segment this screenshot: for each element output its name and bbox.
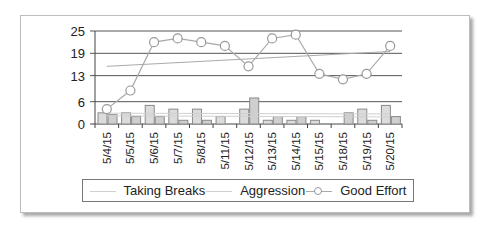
bar-taking-breaks xyxy=(311,120,320,124)
bar-taking-breaks xyxy=(287,120,296,124)
y-tick-label: 6 xyxy=(78,95,85,110)
bar-aggression xyxy=(155,117,164,124)
x-tick-label: 5/8/15 xyxy=(195,132,207,164)
x-tick-label: 5/5/15 xyxy=(124,132,136,164)
legend-line-icon xyxy=(206,186,232,196)
data-point-marker xyxy=(150,38,159,47)
y-tick-label: 13 xyxy=(71,69,85,84)
bar-taking-breaks xyxy=(122,113,131,124)
data-point-marker xyxy=(173,34,182,43)
bar-aggression xyxy=(132,117,141,124)
x-tick-label: 5/19/15 xyxy=(361,132,373,170)
data-point-marker xyxy=(220,41,229,50)
legend-line-icon xyxy=(90,186,116,196)
bar-taking-breaks xyxy=(98,113,107,124)
data-point-marker xyxy=(268,34,277,43)
data-point-marker xyxy=(291,30,300,39)
legend-label: Good Effort xyxy=(340,183,406,198)
legend-item-good-effort: Good Effort xyxy=(306,183,406,198)
bar-aggression xyxy=(368,120,377,124)
data-point-marker xyxy=(315,69,324,78)
legend-item-aggression: Aggression xyxy=(206,183,305,198)
chart-legend: Taking Breaks Aggression Good Effort xyxy=(82,179,414,202)
bar-aggression xyxy=(202,120,211,124)
data-point-marker xyxy=(362,69,371,78)
legend-label: Aggression xyxy=(240,183,305,198)
bar-taking-breaks xyxy=(145,105,154,124)
data-point-marker xyxy=(338,75,347,84)
bar-taking-breaks xyxy=(381,105,390,124)
bar-aggression xyxy=(344,113,353,124)
y-tick-label: 0 xyxy=(78,117,85,132)
x-tick-label: 5/14/15 xyxy=(290,132,302,170)
x-tick-label: 5/13/15 xyxy=(266,132,278,170)
y-tick-label: 19 xyxy=(71,46,85,61)
x-tick-label: 5/6/15 xyxy=(148,132,160,164)
line-good-effort xyxy=(107,35,390,109)
x-tick-label: 5/12/15 xyxy=(243,132,255,170)
data-point-marker xyxy=(126,86,135,95)
legend-item-taking-breaks: Taking Breaks xyxy=(90,183,206,198)
legend-label: Taking Breaks xyxy=(124,183,206,198)
data-point-marker xyxy=(386,41,395,50)
x-tick-label: 5/7/15 xyxy=(172,132,184,164)
bar-taking-breaks xyxy=(263,120,272,124)
bar-aggression xyxy=(273,117,282,124)
legend-circle-marker-icon xyxy=(306,186,332,196)
bar-aggression xyxy=(297,117,306,124)
data-point-marker xyxy=(102,105,111,114)
y-tick-label: 25 xyxy=(71,24,85,39)
data-point-marker xyxy=(197,38,206,47)
x-tick-label: 5/4/15 xyxy=(101,132,113,164)
x-tick-label: 5/15/15 xyxy=(313,132,325,170)
bar-aggression xyxy=(391,117,400,124)
x-tick-label: 5/11/15 xyxy=(219,132,231,170)
bar-taking-breaks xyxy=(216,117,225,124)
x-tick-label: 5/20/15 xyxy=(384,132,396,170)
bar-aggression xyxy=(179,120,188,124)
bar-aggression xyxy=(250,98,259,124)
data-point-marker xyxy=(244,62,253,71)
x-tick-label: 5/18/15 xyxy=(337,132,349,170)
